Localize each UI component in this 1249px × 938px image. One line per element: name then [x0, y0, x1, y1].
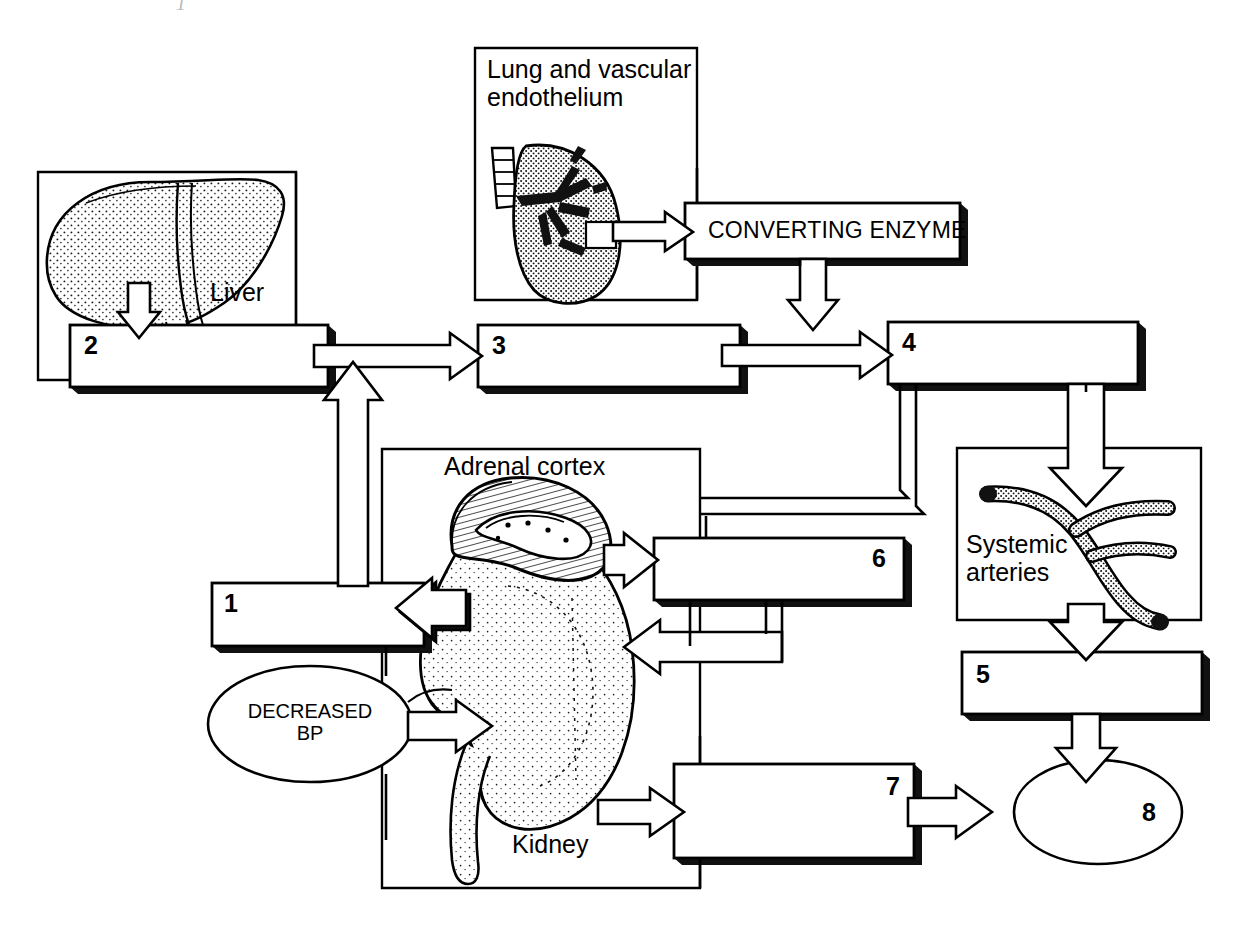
box-4-number: 4: [902, 328, 916, 356]
arrow-box6-to-kidney: [624, 620, 782, 674]
box-3[interactable]: [478, 325, 748, 394]
box-7[interactable]: [674, 764, 922, 865]
frame-title-systemic-arteries: Systemic arteries: [966, 530, 1067, 586]
frame-title-kidney: Kidney: [512, 830, 588, 858]
decreased-bp-label: DECREASED BP: [243, 700, 377, 745]
liver-illustration: [47, 179, 284, 336]
arrow-box1-to-box2: [324, 362, 382, 586]
ellipse-8[interactable]: [1014, 760, 1182, 864]
box-5-number: 5: [976, 660, 990, 688]
box-1-number: 1: [224, 589, 238, 617]
box-2[interactable]: [70, 325, 336, 394]
box-1[interactable]: [212, 583, 432, 653]
box-7-number: 7: [886, 772, 900, 800]
box-6-number: 6: [872, 544, 886, 572]
diagram-vector-layer: [0, 0, 1249, 938]
converting-enzyme-label: CONVERTING ENZYME: [708, 218, 967, 244]
ellipse-8-number: 8: [1142, 798, 1156, 826]
box-3-number: 3: [492, 331, 506, 359]
box-4[interactable]: [888, 322, 1146, 391]
lung-illustration: [492, 145, 620, 303]
frame-title-lung: Lung and vascular endothelium: [487, 55, 691, 111]
diagram-canvas: 1 Lung and vascular endothelium Liver Ad…: [0, 0, 1249, 938]
arrow-enzyme-to-box4: [788, 259, 838, 330]
box-2-number: 2: [84, 331, 98, 359]
arrow-box4-to-arteries: [1050, 384, 1122, 506]
arrow-box2-to-box3: [314, 333, 482, 379]
frame-title-liver: Liver: [210, 278, 264, 306]
box-5[interactable]: [962, 652, 1210, 721]
arrow-kidney-to-box7: [598, 788, 684, 836]
connector-box4-to-adrenal: [700, 384, 924, 514]
frame-title-adrenal-cortex: Adrenal cortex: [444, 452, 605, 480]
scan-artifact: 1: [176, 0, 186, 15]
arrow-lung-to-enzyme: [613, 212, 693, 251]
